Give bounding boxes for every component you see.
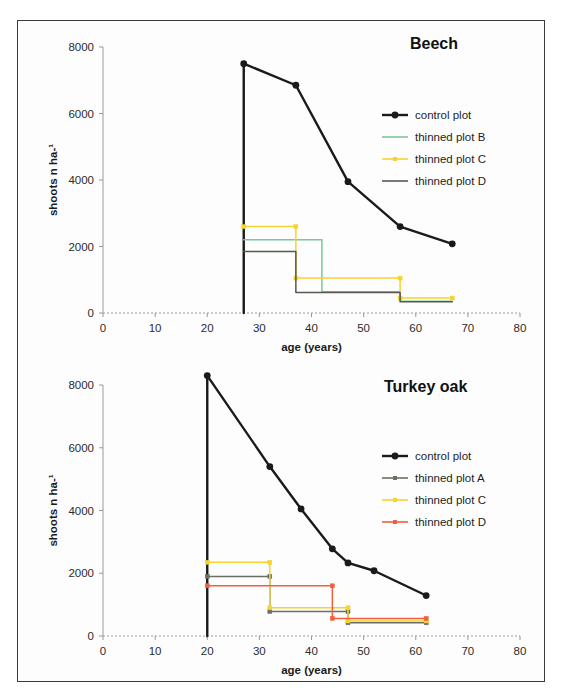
data-point	[205, 584, 209, 588]
x-axis-title: age (years)	[281, 341, 342, 353]
x-tick-label: 80	[514, 322, 527, 334]
data-point	[329, 545, 336, 552]
x-tick-label: 0	[100, 322, 106, 334]
x-tick-label: 50	[357, 645, 370, 657]
chart-title: Beech	[410, 35, 458, 52]
series-line-3	[207, 586, 426, 619]
data-point	[449, 240, 456, 247]
data-point	[268, 606, 272, 610]
legend-label-0: control plot	[415, 109, 472, 121]
x-tick-label: 40	[305, 322, 318, 334]
y-tick-label: 4000	[68, 174, 94, 186]
y-tick-label: 2000	[68, 567, 94, 579]
legend-marker-0	[392, 453, 399, 460]
chart-turkey-oak: 0200040006000800001020304050607080age (y…	[18, 353, 544, 683]
series-line-0	[207, 376, 426, 636]
data-point	[268, 610, 272, 614]
data-point	[345, 559, 352, 566]
x-tick-label: 60	[409, 645, 422, 657]
x-tick-label: 20	[201, 322, 214, 334]
beech-plot-area: 0200040006000800001020304050607080age (y…	[47, 35, 526, 353]
data-point	[450, 296, 454, 300]
data-point	[242, 225, 246, 229]
legend-marker-2	[393, 157, 397, 161]
x-tick-label: 40	[305, 645, 318, 657]
legend-label-1: thinned plot A	[415, 472, 485, 484]
data-point	[398, 276, 402, 280]
y-tick-label: 4000	[68, 505, 94, 517]
chart-title: Turkey oak	[384, 378, 467, 395]
data-point	[346, 606, 350, 610]
y-tick-label: 8000	[68, 379, 94, 391]
legend-marker-3	[393, 520, 397, 524]
x-tick-label: 30	[253, 645, 266, 657]
data-point	[330, 616, 334, 620]
x-tick-label: 30	[253, 322, 266, 334]
data-point	[266, 463, 273, 470]
legend-marker-0	[392, 112, 399, 119]
x-tick-label: 20	[201, 645, 214, 657]
y-axis-title: shoots n ha-¹	[47, 474, 59, 546]
x-tick-label: 10	[149, 322, 162, 334]
data-point	[204, 372, 211, 379]
y-tick-label: 6000	[68, 442, 94, 454]
data-point	[205, 574, 209, 578]
legend-marker-2	[393, 498, 397, 502]
data-point	[424, 616, 428, 620]
data-point	[240, 60, 247, 67]
legend-label-3: thinned plot D	[415, 175, 486, 187]
chart-beech: 0200040006000800001020304050607080age (y…	[18, 21, 544, 353]
legend-label-2: thinned plot C	[415, 494, 486, 506]
legend-label-3: thinned plot D	[415, 516, 486, 528]
legend-marker-1	[393, 476, 397, 480]
series-line-2	[244, 227, 452, 298]
y-tick-label: 6000	[68, 108, 94, 120]
x-tick-label: 0	[100, 645, 106, 657]
data-point	[345, 178, 352, 185]
figure-frame: 0200040006000800001020304050607080age (y…	[17, 20, 545, 682]
x-tick-label: 60	[409, 322, 422, 334]
legend-label-0: control plot	[415, 450, 472, 462]
x-tick-label: 50	[357, 322, 370, 334]
series-line-3	[244, 251, 452, 301]
turkey-oak-plot-area: 0200040006000800001020304050607080age (y…	[47, 372, 526, 676]
chart-beech-svg: 0200040006000800001020304050607080age (y…	[18, 21, 546, 353]
x-axis-title: age (years)	[281, 664, 342, 676]
legend-label-2: thinned plot C	[415, 153, 486, 165]
data-point	[330, 584, 334, 588]
y-tick-label: 8000	[68, 41, 94, 53]
y-axis-title: shoots n ha-¹	[47, 144, 59, 216]
data-point	[294, 225, 298, 229]
data-point	[397, 223, 404, 230]
x-tick-label: 70	[461, 645, 474, 657]
x-tick-label: 80	[514, 645, 527, 657]
chart-turkey-oak-svg: 0200040006000800001020304050607080age (y…	[18, 353, 546, 683]
series-line-1	[207, 576, 426, 622]
x-tick-label: 10	[149, 645, 162, 657]
data-point	[205, 560, 209, 564]
legend-label-1: thinned plot B	[415, 131, 486, 143]
data-point	[268, 560, 272, 564]
data-point	[423, 592, 430, 599]
data-point	[371, 567, 378, 574]
x-tick-label: 70	[461, 322, 474, 334]
data-point	[292, 82, 299, 89]
y-tick-label: 0	[88, 630, 94, 642]
data-point	[298, 506, 305, 513]
y-tick-label: 0	[88, 307, 94, 319]
y-tick-label: 2000	[68, 241, 94, 253]
series-line-0	[244, 64, 452, 313]
data-point	[346, 619, 350, 623]
